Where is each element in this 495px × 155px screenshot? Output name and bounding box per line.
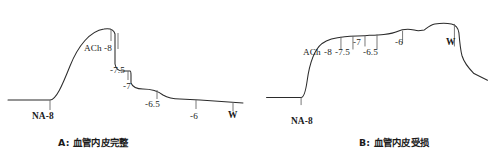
dose-label-b--6.5: -6.5 <box>363 48 378 57</box>
panel-b: ACh -8 -7.5 -7 -6.5 -6 W NA-8 B: 血管内皮受损 <box>247 0 495 155</box>
panel-a: ACh -8 -7.5 -7 -6.5 -6 W NA-8 A: 血管内皮完整 <box>0 0 248 155</box>
caption-a: A: 血管内皮完整 <box>58 135 128 149</box>
ach-label-a: ACh <box>84 44 102 53</box>
trace-a-path <box>8 29 243 103</box>
dose-label-a--6.5: -6.5 <box>145 100 160 109</box>
dose-label-b--7.5: -7.5 <box>335 48 350 57</box>
dose-label-a--6: -6 <box>190 112 198 121</box>
wash-label-a: W <box>228 111 237 120</box>
figure-container: ACh -8 -7.5 -7 -6.5 -6 W NA-8 A: 血管内皮完整 … <box>0 0 495 155</box>
dose-label-a--7.5: -7.5 <box>110 66 125 75</box>
trace-b-svg <box>247 0 495 132</box>
dose-label-b--7: -7 <box>353 38 361 47</box>
baseline-label-b: NA-8 <box>291 117 313 126</box>
baseline-label-a: NA-8 <box>32 112 54 121</box>
caption-b: B: 血管内皮受损 <box>359 135 429 149</box>
dose-label-b--6: -6 <box>395 38 403 47</box>
dose-label-a--8: -8 <box>104 44 112 53</box>
dose-label-a--7: -7 <box>123 82 131 91</box>
dose-label-b--8: -8 <box>324 48 332 57</box>
wash-label-b: W <box>446 38 455 47</box>
ach-label-b: ACh <box>303 48 321 57</box>
